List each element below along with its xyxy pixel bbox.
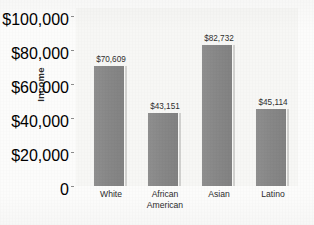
y-tick-mark <box>71 16 74 17</box>
y-tick-label: $40,000 <box>11 113 69 131</box>
y-tick-mark <box>71 186 74 187</box>
bar-value-label: $70,609 <box>86 55 136 64</box>
y-tick-label: $80,000 <box>11 45 69 63</box>
x-axis-labels: White African American Asian Latino <box>76 189 298 223</box>
x-tick-label-latino: Latino <box>245 189 301 200</box>
y-axis-ticks: $100,000 $80,000 $60,000 $40,000 $20,000… <box>0 0 76 225</box>
y-tick-label: $20,000 <box>11 147 69 165</box>
y-tick-label: $100,000 <box>2 11 69 29</box>
y-tick-mark <box>71 84 74 85</box>
bar-rect <box>148 113 178 186</box>
y-tick-mark <box>71 118 74 119</box>
bar-edge-highlight <box>179 113 181 186</box>
y-tick-mark <box>71 50 74 51</box>
bar-rect <box>94 66 124 186</box>
bar-edge-highlight <box>233 45 235 186</box>
bar-rect <box>202 45 232 186</box>
y-tick-mark <box>71 152 74 153</box>
y-tick-label: $60,000 <box>11 79 69 97</box>
x-tick-label-african-american: African American <box>137 189 193 210</box>
bars-layer: $70,609 $43,151 $82,732 $45,114 <box>76 8 298 186</box>
x-tick-label-asian: Asian <box>191 189 247 200</box>
bar-edge-highlight <box>287 109 289 186</box>
bar-value-label: $45,114 <box>248 98 298 107</box>
bar-value-label: $43,151 <box>140 102 190 111</box>
income-bar-chart: Income $100,000 $80,000 $60,000 $40,000 … <box>0 0 314 225</box>
bar-edge-highlight <box>125 66 127 186</box>
bar-rect <box>256 109 286 186</box>
y-tick-label: 0 <box>60 181 69 199</box>
bar-value-label: $82,732 <box>194 34 244 43</box>
x-tick-label-white: White <box>83 189 139 200</box>
